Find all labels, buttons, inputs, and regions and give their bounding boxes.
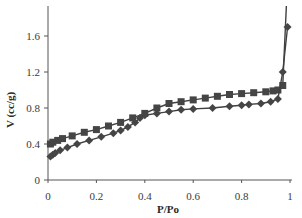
y-tick-label: 0 bbox=[35, 174, 41, 186]
square-marker bbox=[202, 95, 209, 102]
square-marker bbox=[190, 96, 197, 103]
x-tick-label: 0.8 bbox=[235, 190, 249, 202]
square-marker bbox=[262, 88, 269, 95]
diamond-marker bbox=[63, 144, 71, 152]
diamond-marker bbox=[257, 100, 265, 108]
diamond-marker bbox=[165, 108, 173, 116]
square-marker bbox=[250, 89, 257, 96]
x-tick-label: 0 bbox=[45, 190, 51, 202]
x-tick-label: 0.2 bbox=[90, 190, 104, 202]
series-line bbox=[50, 6, 286, 144]
y-tick-label: 0.8 bbox=[26, 102, 40, 114]
diamond-marker bbox=[109, 129, 117, 137]
x-tick-label: 0.6 bbox=[186, 190, 200, 202]
diamond-marker bbox=[189, 105, 197, 113]
square-marker bbox=[214, 93, 221, 100]
isotherm-chart: 00.40.81.21.600.20.40.60.81 P/Po V (cc/g… bbox=[0, 0, 302, 218]
square-marker bbox=[178, 98, 185, 105]
diamond-marker bbox=[85, 136, 93, 144]
diamond-marker bbox=[245, 100, 253, 108]
x-tick-label: 1 bbox=[287, 190, 293, 202]
square-marker bbox=[226, 91, 233, 98]
y-tick-label: 1.6 bbox=[26, 30, 40, 42]
diamond-marker bbox=[238, 101, 246, 109]
diamond-marker bbox=[267, 98, 275, 106]
y-tick-label: 1.2 bbox=[26, 66, 40, 78]
diamond-marker bbox=[226, 102, 234, 110]
square-marker bbox=[59, 135, 66, 142]
y-axis-title: V (cc/g) bbox=[4, 92, 17, 128]
square-marker bbox=[93, 126, 100, 133]
square-marker bbox=[81, 129, 88, 136]
square-marker bbox=[105, 123, 112, 130]
diamond-marker bbox=[274, 95, 282, 103]
diamond-marker bbox=[97, 133, 105, 141]
x-tick-label: 0.4 bbox=[138, 190, 152, 202]
square-marker bbox=[117, 119, 124, 126]
series-layer bbox=[46, 6, 291, 161]
diamond-marker bbox=[117, 127, 125, 135]
square-marker bbox=[69, 132, 76, 139]
square-marker bbox=[166, 100, 173, 107]
y-tick-label: 0.4 bbox=[26, 138, 40, 150]
x-axis-title: P/Po bbox=[157, 203, 179, 215]
diamond-marker bbox=[279, 68, 287, 76]
diamond-marker bbox=[124, 123, 132, 131]
diamond-marker bbox=[177, 106, 185, 114]
diamond-marker bbox=[73, 140, 81, 148]
square-marker bbox=[238, 90, 245, 97]
diamond-marker bbox=[209, 104, 217, 112]
